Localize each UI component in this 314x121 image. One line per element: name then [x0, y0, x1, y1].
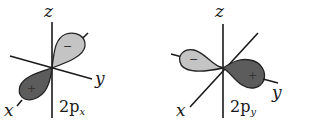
positive-sign: +	[248, 69, 257, 82]
positive-sign: +	[27, 82, 36, 95]
diagram-2px: − + z y x 2px	[4, 1, 105, 120]
x-axis-label: x	[4, 100, 14, 120]
y-axis-label: y	[94, 68, 105, 88]
diagram-2py: − + z y x 2py	[171, 1, 282, 120]
orbital-diagram: − + z y x 2px − + z y x 2py	[0, 0, 314, 121]
orbital-label-2px: 2px	[59, 97, 85, 117]
orbital-label-2py: 2py	[230, 97, 256, 117]
negative-sign: −	[63, 40, 72, 53]
z-axis-label: z	[43, 1, 54, 21]
negative-lobe	[180, 50, 223, 71]
x-axis-front	[17, 100, 22, 106]
x-axis-label: x	[176, 100, 186, 120]
positive-lobe	[223, 59, 264, 88]
y-axis-label: y	[271, 82, 282, 102]
z-axis-label: z	[214, 1, 225, 21]
negative-sign: −	[189, 53, 198, 66]
